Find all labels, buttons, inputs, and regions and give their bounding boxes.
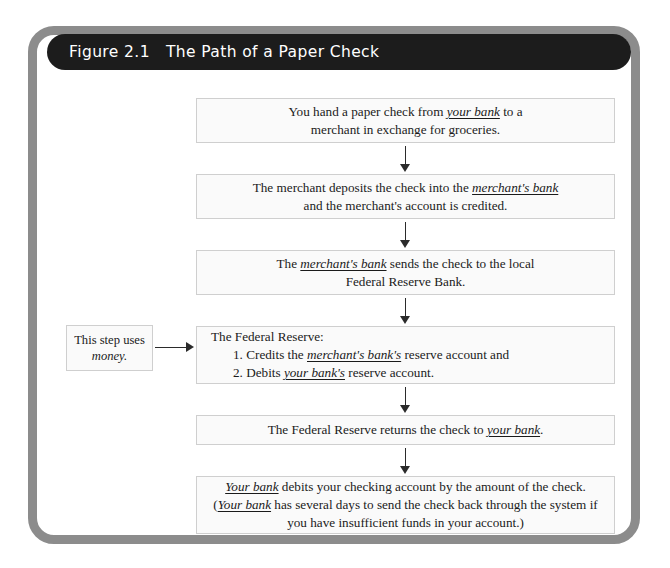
figure-title-bar: Figure 2.1 The Path of a Paper Check: [47, 34, 631, 70]
step-3-line-2: Federal Reserve Bank.: [346, 273, 466, 291]
arrow-stem: [155, 347, 186, 348]
arrow-step-5-to-6: [400, 448, 411, 474]
step-5-line-1: The Federal Reserve returns the check to…: [268, 421, 544, 439]
figure-container: Figure 2.1 The Path of a Paper Check You…: [0, 0, 670, 568]
text-run: The: [277, 256, 301, 271]
callout-line-2: money.: [92, 348, 127, 364]
text-run: The merchant deposits the check into the: [253, 180, 472, 195]
step-4-line-2: 1. Credits the merchant's bank's reserve…: [211, 346, 509, 364]
emphasized-term: merchant's bank: [472, 180, 558, 195]
flow-step-6: Your bank debits your checking account b…: [196, 476, 615, 534]
text-run: The Federal Reserve returns the check to: [268, 422, 487, 437]
text-run: 2. Debits: [233, 365, 284, 380]
text-run: The Federal Reserve:: [211, 329, 324, 344]
step-6-line-2: (Your bank has several days to send the …: [213, 496, 597, 514]
text-run: reserve account.: [345, 365, 434, 380]
step-4-line-3: 2. Debits your bank's reserve account.: [211, 364, 434, 382]
arrow-stem: [405, 222, 406, 241]
text-run: Federal Reserve Bank.: [346, 274, 466, 289]
arrow-stem: [405, 298, 406, 317]
arrow-head: [400, 466, 410, 474]
arrow-step-2-to-3: [400, 222, 411, 248]
flow-step-2: The merchant deposits the check into the…: [196, 174, 615, 219]
text-run: and the merchant's account is credited.: [304, 198, 508, 213]
text-run: debits your checking account by the amou…: [279, 479, 586, 494]
step-2-line-2: and the merchant's account is credited.: [304, 197, 508, 215]
emphasized-term: merchant's bank's: [307, 347, 401, 362]
step-1-line-1: You hand a paper check from your bank to…: [288, 103, 522, 121]
text-run: to a: [500, 104, 523, 119]
flow-step-3: The merchant's bank sends the check to t…: [196, 250, 615, 295]
step-6-line-1: Your bank debits your checking account b…: [225, 478, 586, 496]
callout-line-1: This step uses: [74, 332, 145, 348]
flow-step-1: You hand a paper check from your bank to…: [196, 98, 615, 143]
arrow-head: [400, 164, 410, 172]
arrow-callout-to-step-4: [155, 342, 194, 353]
arrow-head: [400, 240, 410, 248]
callout-box: This step uses money.: [66, 325, 153, 371]
emphasized-term: your bank's: [284, 365, 345, 380]
arrow-stem: [405, 146, 406, 165]
emphasized-term: Your bank: [225, 479, 278, 494]
text-run: You hand a paper check from: [288, 104, 446, 119]
text-run: reserve account and: [401, 347, 509, 362]
text-run: merchant in exchange for groceries.: [311, 122, 500, 137]
emphasized-term: your bank: [447, 104, 500, 119]
arrow-step-3-to-4: [400, 298, 411, 324]
emphasized-term: Your bank: [218, 497, 271, 512]
arrow-head: [400, 316, 410, 324]
text-run: you have insufficient funds in your acco…: [287, 515, 524, 530]
step-3-line-1: The merchant's bank sends the check to t…: [277, 255, 535, 273]
emphasized-term: your bank: [487, 422, 540, 437]
text-run: has several days to send the check back …: [271, 497, 598, 512]
text-run: 1. Credits the: [233, 347, 307, 362]
figure-title: Figure 2.1 The Path of a Paper Check: [47, 43, 379, 61]
flow-step-5: The Federal Reserve returns the check to…: [196, 415, 615, 445]
arrow-stem: [405, 448, 406, 467]
emphasized-term: merchant's bank: [300, 256, 386, 271]
step-2-line-1: The merchant deposits the check into the…: [253, 179, 559, 197]
arrow-head: [400, 405, 410, 413]
arrow-head: [186, 342, 194, 352]
step-6-line-3: you have insufficient funds in your acco…: [287, 514, 524, 532]
text-run: .: [540, 422, 543, 437]
arrow-step-1-to-2: [400, 146, 411, 172]
step-4-line-1: The Federal Reserve:: [211, 328, 324, 346]
text-run: sends the check to the local: [387, 256, 535, 271]
step-1-line-2: merchant in exchange for groceries.: [311, 121, 500, 139]
flow-step-4: The Federal Reserve:1. Credits the merch…: [196, 326, 615, 384]
arrow-stem: [405, 387, 406, 406]
arrow-step-4-to-5: [400, 387, 411, 413]
